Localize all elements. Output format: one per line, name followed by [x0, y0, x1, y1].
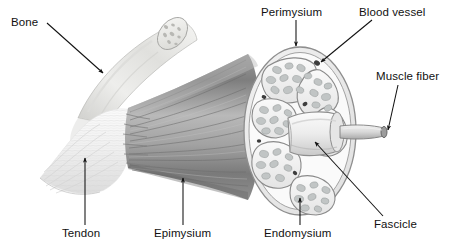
label-bone: Bone [11, 16, 38, 28]
label-perimysium: Perimysium [261, 6, 322, 18]
muscle-structure-figure: Bone Perimysium Blood vessel Muscle fibe… [0, 0, 452, 248]
anatomy-illustration [0, 0, 452, 248]
label-epimysium: Epimysium [154, 227, 211, 239]
leader-blood-vessel [321, 20, 372, 62]
muscle-cross-section [244, 47, 387, 215]
single-muscle-fiber [340, 125, 387, 139]
label-endomysium: Endomysium [264, 227, 331, 239]
leader-muscle-fiber [388, 85, 398, 130]
leader-bone [47, 23, 103, 73]
label-blood-vessel: Blood vessel [359, 6, 425, 18]
label-fascicle: Fascicle [374, 218, 417, 230]
label-tendon: Tendon [62, 227, 100, 239]
fascicle-cylinder [288, 112, 344, 156]
label-muscle-fiber: Muscle fiber [376, 70, 439, 82]
